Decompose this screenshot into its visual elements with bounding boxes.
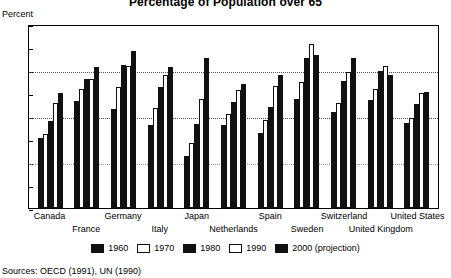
legend-swatch: [275, 244, 288, 253]
legend-label: 1970: [154, 243, 174, 253]
x-tick-label: Italy: [152, 224, 169, 234]
bar-group: [288, 26, 325, 208]
chart-legend: 19601970198019902000 (projection): [0, 243, 451, 253]
x-tick-label: Japan: [184, 211, 209, 221]
bar: [278, 75, 283, 208]
bar-group: [215, 26, 252, 208]
chart-figure: Percentage of Population over 65 Percent…: [0, 0, 451, 278]
bar-group: [32, 26, 69, 208]
x-tick-label: Sweden: [291, 224, 324, 234]
bar: [131, 51, 136, 208]
legend-label: 2000 (projection): [292, 243, 360, 253]
legend-item: 1960: [91, 243, 128, 253]
bar: [58, 93, 63, 208]
legend-swatch: [91, 244, 104, 253]
x-tick-label: Switzerland: [321, 211, 368, 221]
legend-label: 1960: [108, 243, 128, 253]
x-axis-labels: CanadaFranceGermanyItalyJapanNetherlands…: [28, 210, 439, 240]
bar: [314, 55, 319, 208]
bar-group: [398, 26, 435, 208]
legend-item: 1990: [229, 243, 266, 253]
x-tick-label: United Kingdom: [349, 224, 413, 234]
bar: [168, 67, 173, 208]
plot-area: 05101520: [28, 25, 439, 209]
legend-label: 1990: [246, 243, 266, 253]
legend-swatch: [137, 244, 150, 253]
x-tick-label: Spain: [259, 211, 282, 221]
chart-title: Percentage of Population over 65: [0, 0, 451, 9]
bar: [388, 75, 393, 208]
bar: [351, 58, 356, 208]
bar-group: [252, 26, 289, 208]
bar-group: [142, 26, 179, 208]
legend-swatch: [183, 244, 196, 253]
bar: [94, 67, 99, 208]
y-axis-title: Percent: [2, 9, 33, 19]
x-tick-label: Germany: [105, 211, 142, 221]
sources-note: Sources: OECD (1991), UN (1990): [2, 266, 141, 276]
x-tick-label: Canada: [34, 211, 66, 221]
x-tick-label: United States: [391, 211, 445, 221]
x-tick-label: Netherlands: [209, 224, 258, 234]
x-tick-label: France: [72, 224, 100, 234]
bar: [424, 92, 429, 208]
legend-item: 1980: [183, 243, 220, 253]
bar-groups: [29, 26, 438, 208]
bar: [241, 84, 246, 208]
bar-group: [179, 26, 216, 208]
bar-group: [325, 26, 362, 208]
legend-item: 1970: [137, 243, 174, 253]
legend-item: 2000 (projection): [275, 243, 360, 253]
legend-swatch: [229, 244, 242, 253]
bar: [204, 58, 209, 208]
bar-group: [362, 26, 399, 208]
legend-label: 1980: [200, 243, 220, 253]
bar-group: [105, 26, 142, 208]
bar-group: [69, 26, 106, 208]
